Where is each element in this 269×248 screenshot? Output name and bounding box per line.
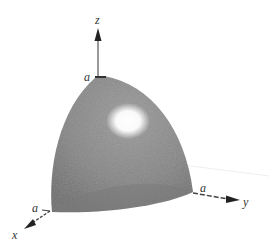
z-axis-arrowhead-icon [95, 28, 102, 41]
y-intercept-label: a [200, 182, 206, 194]
x-intercept-tick [42, 210, 50, 211]
y-axis-arrowhead-icon [226, 196, 240, 204]
specular-highlight [106, 103, 150, 139]
z-intercept-label: a [84, 71, 90, 83]
x-intercept-label: a [32, 202, 38, 214]
y-axis-line [193, 193, 228, 199]
sphere-octant-figure: z a a x a y [0, 0, 269, 248]
x-axis-label: x [12, 229, 17, 241]
y-axis-label: y [243, 196, 248, 208]
x-axis-arrowhead-icon [24, 219, 36, 229]
z-axis-label: z [95, 14, 100, 26]
diagram-canvas [0, 0, 269, 248]
